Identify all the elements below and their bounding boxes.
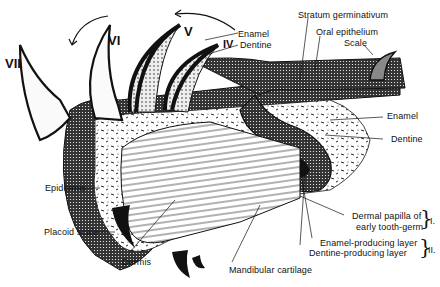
- label-epidermis: Epidermis: [45, 183, 86, 193]
- group-label-1: I.: [430, 216, 435, 226]
- label-scale: Scale: [344, 38, 367, 48]
- label-stratum-germinativum: Stratum germinativum: [298, 10, 388, 20]
- label-oral-epithelium: Oral epithelium: [316, 27, 378, 37]
- tooth-numeral-VII: VII: [5, 56, 21, 71]
- tooth-numeral-IV: IV: [223, 38, 233, 50]
- label-enamel-right: Enamel: [387, 111, 418, 121]
- tooth-numeral-V: V: [184, 24, 193, 39]
- label-dentine-right: Dentine: [391, 134, 423, 144]
- label-dentine-producing-layer: Dentine-producing layer: [309, 248, 407, 258]
- label-mandibular-cartilage: Mandibular cartilage: [229, 265, 312, 275]
- label-dermis: Dermis: [122, 257, 151, 267]
- label-enamel-top: Enamel: [238, 29, 269, 39]
- tooth-VII: [20, 45, 70, 140]
- tooth-numeral-VI: VI: [108, 33, 120, 48]
- label-dermal-papilla-1: Dermal papilla of: [352, 211, 421, 221]
- label-dentine-top: Dentine: [240, 40, 272, 50]
- mandibular-cartilage: [121, 122, 300, 243]
- label-placoid-scale: Placoid scale: [44, 227, 98, 237]
- group-label-2: II.: [428, 245, 436, 255]
- rotation-arrows: [69, 10, 235, 45]
- label-dermal-papilla-2: early tooth-germ: [356, 222, 423, 232]
- label-enamel-producing-layer: Enamel-producing layer: [320, 238, 417, 248]
